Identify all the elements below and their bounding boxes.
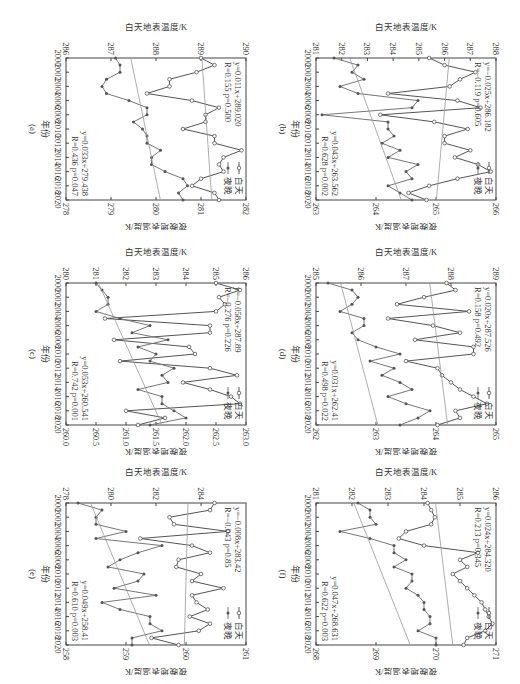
y-tick-label: 286: [241, 267, 251, 280]
y-tick-label: 284: [388, 42, 398, 56]
y2-tick-label: 282: [241, 203, 250, 215]
day-regression-stats: R=−0.276 p=0.226: [223, 287, 233, 352]
y2-tick-label: 262.0: [181, 428, 190, 446]
y2-tick-label: 264: [431, 428, 440, 440]
y-tick-label: 289: [491, 267, 501, 280]
legend-night-label: 夜晚: [223, 177, 233, 195]
x-axis-label: 年份: [290, 565, 301, 583]
y-tick-label: 286: [356, 267, 366, 280]
y-tick-label: 282: [337, 42, 347, 55]
day-regression-stats: R=0.155 p=0.500: [223, 62, 233, 122]
y-tick-label: 284: [419, 487, 429, 501]
y2-tick-label: 270: [431, 648, 440, 660]
y-tick-label: 288: [491, 42, 501, 55]
legend: 白天夜晚: [473, 607, 494, 640]
night-regression-equation: y=0.047x+268.631: [330, 576, 340, 641]
y-tick-label: 283: [362, 42, 372, 55]
night-regression-equation: y=0.043x+263.562: [330, 131, 340, 196]
y2-tick-label: 265: [431, 203, 440, 215]
y-tick-label: 285: [311, 267, 321, 280]
y-tick-label: 284: [181, 267, 191, 281]
legend-day-label: 白天: [234, 177, 244, 195]
y-tick-label: 286: [61, 42, 71, 55]
y2-tick-label: 279: [106, 203, 115, 215]
y2-tick-label: 258: [61, 648, 70, 660]
panel-label: (e): [28, 569, 38, 579]
y2-axis-label: 夜晚地表温度/K: [124, 667, 187, 675]
night-regression-equation: y=0.053x+260.541: [80, 356, 90, 421]
y-tick-label: 282: [121, 267, 131, 280]
panel-label: (d): [278, 349, 288, 360]
legend: 白天夜晚: [223, 607, 244, 640]
y2-tick-label: 266: [491, 203, 500, 215]
y-tick-label: 280: [61, 267, 71, 280]
night-series-line: [328, 283, 430, 425]
legend-day-label: 白天: [484, 622, 494, 640]
day-regression-equation: y=−0.058x+287.89: [233, 287, 243, 352]
chart-panel-a: 2000200220042006200820102012201420162018…: [14, 20, 258, 230]
day-regression-stats: R=0.213 p=0.345: [473, 507, 483, 567]
panel-label: (b): [278, 124, 288, 135]
y-tick-label: 287: [106, 42, 116, 55]
trend-line: [436, 58, 449, 200]
y2-axis-label: 夜晚地表温度/K: [124, 447, 187, 455]
y2-tick-label: 264: [371, 203, 380, 215]
panel-label: (a): [28, 124, 38, 134]
day-regression-stats: R=0.158 p=0.492: [473, 287, 483, 347]
y2-tick-label: 259: [121, 648, 130, 660]
y2-tick-label: 260.0: [61, 428, 70, 446]
day-regression-stats: R=−0.119 p=0.605: [473, 62, 483, 126]
y-tick-label: 285: [414, 42, 424, 55]
y-tick-label: 287: [401, 267, 411, 280]
trend-line: [436, 503, 453, 645]
panel-label: (f): [278, 570, 288, 579]
night-regression-stats: R=0.742 p=0.001: [70, 361, 80, 421]
night-regression-stats: R=0.498 p=0.022: [320, 361, 330, 421]
night-regression-stats: R=0.436 p=0.047: [70, 136, 80, 196]
y2-tick-label: 263: [371, 428, 380, 440]
y-axis-label: 白天地表温度/K: [125, 22, 188, 32]
night-regression-stats: R=0.622 p=0.003: [320, 581, 330, 641]
legend-night-label: 夜晚: [473, 177, 483, 195]
trend-line: [202, 58, 212, 200]
y-axis-label: 白天地表温度/K: [375, 247, 438, 257]
y-tick-label: 289: [196, 42, 206, 55]
day-regression-equation: y=0.011x+289.020: [233, 62, 243, 127]
y2-tick-label: 263: [311, 203, 320, 215]
legend: 白天夜晚: [473, 162, 494, 195]
day-regression-equation: y=−0.008x+283.42: [233, 507, 243, 572]
y2-tick-label: 271: [491, 648, 500, 660]
plot-frame: [316, 503, 496, 645]
day-regression-equation: y=0.024x+284.320: [483, 507, 493, 572]
y2-tick-label: 261: [241, 648, 250, 660]
night-regression-equation: y=0.049x+258.41: [80, 580, 90, 641]
day-regression-equation: y=0.020x+287.526: [483, 287, 493, 352]
x-axis-label: 年份: [40, 565, 51, 583]
chart-panel-f: 2000200220042006200820102012201420162018…: [264, 465, 508, 675]
y2-tick-label: 260.5: [91, 428, 100, 446]
x-axis-label: 年份: [40, 120, 51, 138]
y2-axis-label: 夜晚地表温度/K: [374, 222, 437, 230]
night-series-line: [340, 503, 436, 645]
trend-line: [91, 503, 150, 645]
y-tick-label: 282: [151, 487, 161, 500]
day-series-line: [140, 503, 228, 645]
y2-tick-label: 281: [196, 203, 205, 215]
y-tick-label: 281: [311, 42, 321, 55]
legend: 白天夜晚: [223, 162, 244, 195]
panel-label: (c): [28, 349, 38, 359]
chart-panel-c: 2000200220042006200820102012201420162018…: [14, 245, 258, 455]
night-regression-stats: R=0.628 p=0.002: [320, 136, 330, 196]
y-tick-label: 288: [446, 267, 456, 280]
y-tick-label: 281: [311, 487, 321, 500]
trend-line: [430, 283, 448, 425]
y-axis-label: 白天地表温度/K: [375, 22, 438, 32]
y-tick-label: 280: [106, 487, 116, 500]
trend-line: [98, 283, 162, 425]
y2-tick-label: 260: [181, 648, 190, 660]
legend-night-label: 夜晚: [473, 402, 483, 420]
chart-panel-e: 2000200220042006200820102012201420162018…: [14, 465, 258, 675]
y2-tick-label: 263.0: [241, 428, 250, 446]
legend-day-label: 白天: [484, 402, 494, 420]
night-regression-equation: y=0.033x+279.438: [80, 131, 90, 196]
